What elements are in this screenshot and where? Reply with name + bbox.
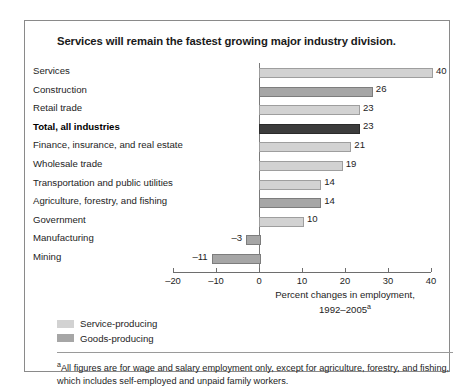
x-axis-title-line1: Percent changes in employment, [245, 289, 445, 302]
chart-plot-area: Services40Construction26Retail trade23To… [33, 63, 445, 288]
bar-value-label: 14 [324, 195, 335, 206]
x-axis-tick-label: 0 [239, 275, 279, 286]
chart-legend: Service-producing Goods-producing [57, 317, 157, 346]
x-axis-tick-label: 20 [325, 275, 365, 286]
x-axis-tick-label: –10 [196, 275, 236, 286]
footnote-divider [57, 352, 453, 353]
bar-value-label: –11 [190, 251, 208, 262]
legend-swatch-service-producing-icon [57, 320, 74, 328]
chart-row: Finance, insurance, and real estate21 [33, 137, 445, 156]
bar [246, 235, 261, 245]
x-axis-tick [259, 268, 260, 272]
category-label: Wholesale trade [33, 158, 221, 169]
category-label: Total, all industries [33, 121, 221, 132]
x-axis-tick [216, 268, 217, 272]
bar [259, 68, 433, 78]
bar-value-label: 19 [346, 158, 357, 169]
figure-frame: Services will remain the fastest growing… [24, 20, 450, 372]
x-axis-title-line2: 1992–2005a [245, 301, 445, 317]
category-label: Agriculture, forestry, and fishing [33, 195, 221, 206]
x-axis-tick [302, 268, 303, 272]
footnote: aAll figures are for wage and salary emp… [57, 359, 453, 387]
bar-value-label: 40 [436, 65, 447, 76]
chart-title: Services will remain the fastest growing… [57, 34, 397, 49]
chart-row: Wholesale trade19 [33, 156, 445, 175]
bar [259, 217, 304, 227]
chart-row: Construction26 [33, 82, 445, 101]
x-axis-title-footnote-marker: a [367, 303, 371, 310]
x-axis-title-years: 1992–2005 [319, 304, 367, 315]
bar [259, 142, 351, 152]
bar-value-label: 14 [324, 176, 335, 187]
x-axis-tick-label: –20 [153, 275, 193, 286]
footnote-text: All figures are for wage and salary empl… [57, 363, 449, 386]
chart-row: Total, all industries23 [33, 119, 445, 138]
category-label: Construction [33, 84, 221, 95]
chart-row: Agriculture, forestry, and fishing14 [33, 193, 445, 212]
legend-label-goods-producing: Goods-producing [80, 333, 154, 344]
bar [259, 161, 343, 171]
bar [259, 198, 321, 208]
bar [259, 87, 373, 97]
chart-row: Transportation and public utilities14 [33, 175, 445, 194]
chart-row: Services40 [33, 63, 445, 82]
x-axis-tick-label: 30 [368, 275, 408, 286]
bar [259, 180, 321, 190]
chart-row: Manufacturing–3 [33, 230, 445, 249]
x-axis-tick [431, 268, 432, 272]
bar-value-label: 10 [307, 213, 318, 224]
x-axis-tick-label: 10 [282, 275, 322, 286]
chart-row: Government10 [33, 212, 445, 231]
chart-row: Mining–11 [33, 249, 445, 268]
bar [212, 254, 261, 264]
category-label: Government [33, 214, 221, 225]
chart-row: Retail trade23 [33, 100, 445, 119]
bar-value-label: 21 [354, 139, 365, 150]
category-label: Finance, insurance, and real estate [33, 139, 221, 150]
bar-value-label: 23 [363, 102, 374, 113]
legend-swatch-goods-producing-icon [57, 334, 74, 342]
legend-label-service-producing: Service-producing [80, 318, 157, 329]
x-axis-tick [388, 268, 389, 272]
x-axis-tick [345, 268, 346, 272]
legend-item-service-producing: Service-producing [57, 317, 157, 330]
x-axis-title: Percent changes in employment, 1992–2005… [245, 289, 445, 317]
category-label: Transportation and public utilities [33, 177, 221, 188]
bar-value-label: 26 [376, 83, 387, 94]
bar [259, 105, 360, 115]
bar-value-label: –3 [224, 232, 242, 243]
x-axis-line [173, 272, 431, 273]
legend-item-goods-producing: Goods-producing [57, 332, 157, 345]
x-axis-tick-label: 40 [411, 275, 451, 286]
bar-value-label: 23 [363, 120, 374, 131]
category-label: Retail trade [33, 102, 221, 113]
category-label: Manufacturing [33, 232, 221, 243]
bar [259, 124, 360, 134]
x-axis-tick [173, 268, 174, 272]
category-label: Services [33, 65, 221, 76]
